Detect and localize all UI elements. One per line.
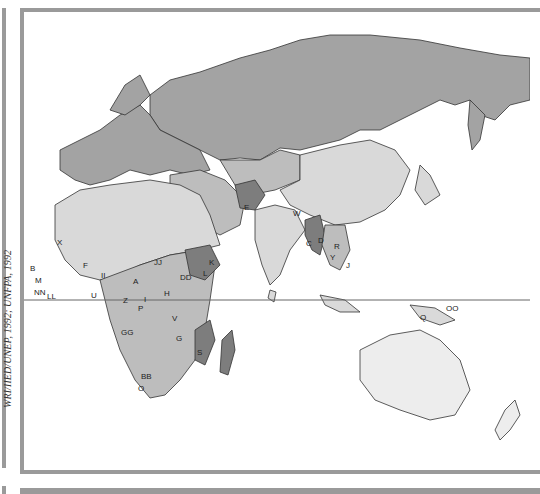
svg-text:II: II bbox=[101, 271, 105, 280]
svg-text:Z: Z bbox=[123, 296, 128, 305]
svg-text:G: G bbox=[176, 334, 182, 343]
madagascar-region bbox=[220, 330, 235, 375]
australia-region bbox=[360, 330, 470, 420]
indonesia-region bbox=[320, 295, 360, 312]
svg-text:S: S bbox=[197, 348, 202, 357]
svg-text:O: O bbox=[138, 384, 144, 393]
svg-text:BB: BB bbox=[141, 372, 152, 381]
svg-text:NN: NN bbox=[34, 288, 46, 297]
svg-text:JJ: JJ bbox=[154, 258, 162, 267]
svg-text:Q: Q bbox=[420, 313, 426, 322]
svg-text:D: D bbox=[318, 236, 324, 245]
svg-text:E: E bbox=[244, 203, 249, 212]
svg-text:A: A bbox=[133, 277, 139, 286]
svg-text:L: L bbox=[203, 269, 208, 278]
new-zealand-region bbox=[495, 400, 520, 440]
svg-text:Y: Y bbox=[330, 253, 336, 262]
source-credit: WRI/IIED/UNEP, 1992; UNFPA, 1992 bbox=[2, 250, 13, 408]
svg-text:DD: DD bbox=[180, 273, 192, 282]
svg-text:J: J bbox=[346, 261, 350, 270]
svg-text:M: M bbox=[35, 276, 42, 285]
svg-text:LL: LL bbox=[47, 292, 56, 301]
svg-text:I: I bbox=[144, 295, 146, 304]
svg-text:P: P bbox=[138, 304, 143, 313]
svg-text:C: C bbox=[306, 239, 312, 248]
svg-text:R: R bbox=[334, 242, 340, 251]
svg-text:GG: GG bbox=[121, 328, 133, 337]
japan-region bbox=[415, 165, 440, 205]
svg-text:K: K bbox=[209, 258, 215, 267]
burma-region bbox=[305, 215, 325, 255]
svg-text:W: W bbox=[293, 209, 301, 218]
svg-text:V: V bbox=[172, 314, 178, 323]
svg-text:B: B bbox=[30, 264, 35, 273]
svg-text:H: H bbox=[164, 289, 170, 298]
svg-text:U: U bbox=[91, 291, 97, 300]
svg-text:X: X bbox=[57, 238, 63, 247]
svg-text:OO: OO bbox=[446, 304, 458, 313]
svg-text:F: F bbox=[83, 261, 88, 270]
